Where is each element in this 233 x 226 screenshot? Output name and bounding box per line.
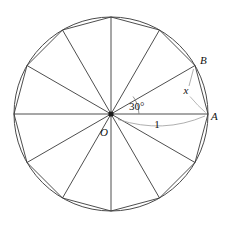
- spoke-150deg: [27, 66, 111, 115]
- spoke-120deg: [63, 30, 112, 114]
- label-point-a: A: [210, 110, 218, 122]
- label-center-o: O: [100, 126, 108, 138]
- label-chord-x: x: [183, 84, 189, 96]
- spoke-30deg: [111, 66, 195, 115]
- label-angle-30deg: 30°: [129, 100, 144, 112]
- geometry-figure: O A B 30° 1 x: [0, 0, 233, 226]
- chord-leader-line: [189, 69, 194, 86]
- center-point-marker: [108, 111, 113, 116]
- chord-measure-arc: [190, 97, 206, 113]
- radius-measure-arc: [118, 116, 205, 126]
- spoke-300deg: [111, 114, 160, 198]
- label-radius-one: 1: [154, 118, 160, 130]
- spoke-210deg: [27, 114, 111, 163]
- label-point-b: B: [200, 54, 207, 66]
